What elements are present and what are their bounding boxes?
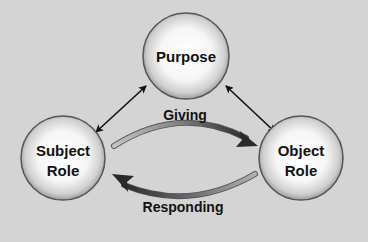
link-purpose-object <box>226 86 275 132</box>
node-purpose: Purpose <box>143 13 229 99</box>
giving-arrow <box>114 123 258 147</box>
link-purpose-subject <box>96 86 146 132</box>
giving-label: Giving <box>163 107 207 123</box>
responding-label: Responding <box>143 199 224 215</box>
diagram-svg: Purpose Subject Role Object Role Giving … <box>0 0 368 242</box>
node-subject-label-line1: Subject <box>36 142 90 159</box>
node-subject-role: Subject Role <box>21 116 105 200</box>
node-purpose-label: Purpose <box>156 48 216 65</box>
node-object-role: Object Role <box>259 116 343 200</box>
diagram-canvas: Purpose Subject Role Object Role Giving … <box>0 0 368 242</box>
responding-arrow <box>112 174 255 196</box>
node-subject-label-line2: Role <box>47 162 80 179</box>
node-object-label-line1: Object <box>278 142 325 159</box>
node-object-label-line2: Role <box>285 162 318 179</box>
